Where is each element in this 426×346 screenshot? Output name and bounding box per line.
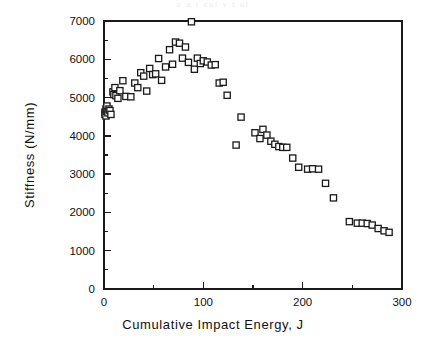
scatter-plot: 01000200030004000500060007000 0100200300… (0, 0, 426, 346)
data-point (233, 142, 239, 148)
x-axis-tick-labels: 0100200300 (101, 296, 412, 308)
y-tick-label: 1000 (69, 245, 95, 257)
data-point (284, 144, 290, 150)
data-point (212, 62, 218, 68)
data-point (115, 95, 121, 101)
data-point (176, 40, 182, 46)
data-point (310, 166, 316, 172)
data-point (238, 114, 244, 120)
data-point (290, 155, 296, 161)
data-point (166, 47, 172, 53)
data-point (141, 73, 147, 79)
y-tick-label: 2000 (69, 206, 95, 218)
data-point (117, 88, 123, 94)
data-point (315, 166, 321, 172)
data-point (330, 195, 336, 201)
data-point (169, 61, 175, 67)
data-point (162, 64, 168, 70)
data-point (346, 219, 352, 225)
data-point (296, 164, 302, 170)
data-point (224, 92, 230, 98)
data-point (108, 111, 114, 117)
data-point (257, 135, 263, 141)
y-tick-label: 0 (89, 283, 95, 295)
data-point (147, 65, 153, 71)
data-point (128, 94, 134, 100)
data-point (191, 66, 197, 72)
y-tick-label: 5000 (69, 92, 95, 104)
data-point (322, 180, 328, 186)
y-tick-label: 6000 (69, 53, 95, 65)
data-point (179, 55, 185, 61)
axes-box (104, 21, 402, 289)
data-point (188, 19, 194, 25)
x-tick-label: 100 (194, 296, 213, 308)
data-point (156, 55, 162, 61)
y-axis-tick-labels: 01000200030004000500060007000 (69, 15, 95, 295)
data-point (120, 78, 126, 84)
figure-container: o a t cul v t ul 01000200030004000500060… (0, 0, 426, 346)
data-point (153, 71, 159, 77)
x-tick-label: 300 (392, 296, 411, 308)
data-point (264, 132, 270, 138)
x-tick-label: 200 (293, 296, 312, 308)
data-point (144, 88, 150, 94)
data-point (220, 79, 226, 85)
data-point-group (102, 19, 392, 236)
y-tick-label: 4000 (69, 130, 95, 142)
x-tick-label: 0 (101, 296, 107, 308)
data-point (135, 85, 141, 91)
data-point (375, 225, 381, 231)
data-point (386, 229, 392, 235)
data-point (369, 222, 375, 228)
y-tick-label: 3000 (69, 168, 95, 180)
data-point (159, 77, 165, 83)
y-axis-ticks (104, 21, 111, 289)
data-point (185, 59, 191, 65)
y-axis-title: Stiffness (N/mm) (22, 102, 37, 208)
y-tick-label: 7000 (69, 15, 95, 27)
data-point (182, 44, 188, 50)
x-axis-title: Cumulative Impact Energy, J (122, 317, 303, 332)
plot-frame (104, 21, 402, 289)
x-axis-ticks (104, 282, 402, 289)
